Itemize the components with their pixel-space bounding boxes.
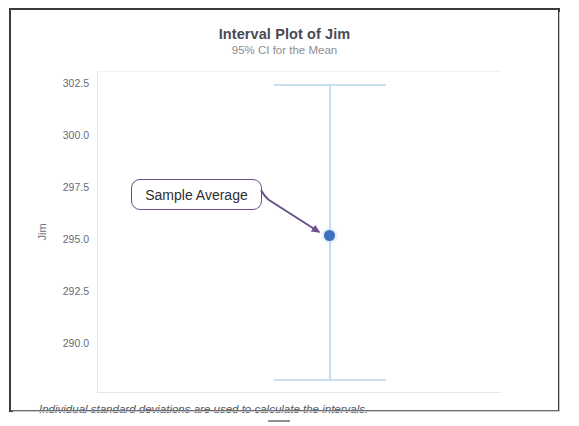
footer-divider <box>11 410 558 411</box>
interval-lower-cap <box>274 379 386 381</box>
page-bottom-marker <box>268 420 290 422</box>
chart-subtitle: 95% CI for the Mean <box>11 44 558 56</box>
page-title: Interval Plot of Jim <box>11 26 558 42</box>
callout-label: Sample Average <box>145 187 247 203</box>
callout-arrow-icon <box>259 188 331 240</box>
y-tick-label: 300.0 <box>43 129 89 141</box>
y-tick-label: 292.5 <box>43 285 89 297</box>
sample-average-callout[interactable]: Sample Average <box>131 179 262 210</box>
y-tick-label: 297.5 <box>43 181 89 193</box>
y-tick-label: 295.0 <box>43 233 89 245</box>
y-axis-tick-group: 302.5 300.0 297.5 295.0 292.5 290.0 <box>43 10 89 426</box>
chart-frame: Interval Plot of Jim 95% CI for the Mean… <box>9 8 560 412</box>
y-tick-label: 302.5 <box>43 77 89 89</box>
y-tick-label: 290.0 <box>43 337 89 349</box>
chart-footnote: Individual standard deviations are used … <box>39 403 368 415</box>
